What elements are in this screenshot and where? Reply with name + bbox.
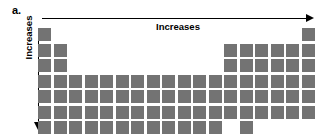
- grid-cell-filled: [38, 28, 51, 41]
- grid-cell-filled: [209, 75, 222, 88]
- grid-cell-filled: [286, 90, 299, 103]
- grid-cell-filled: [100, 121, 113, 134]
- grid-cell-filled: [116, 106, 129, 119]
- grid-cell-filled: [193, 121, 206, 134]
- grid-cell-filled: [240, 90, 253, 103]
- grid-cell-filled: [302, 59, 315, 72]
- grid-cell-filled: [224, 75, 237, 88]
- left-axis-label: Increases: [23, 0, 34, 88]
- grid-cell-filled: [54, 75, 67, 88]
- grid-cell-filled: [302, 90, 315, 103]
- grid-cell-filled: [178, 106, 191, 119]
- grid-cell-filled: [54, 59, 67, 72]
- top-axis-label: Increases: [42, 21, 314, 32]
- grid-cell-filled: [69, 90, 82, 103]
- grid-cell-filled: [286, 75, 299, 88]
- grid-cell-filled: [255, 44, 268, 57]
- grid-cell-filled: [302, 106, 315, 119]
- grid-cell-filled: [286, 106, 299, 119]
- grid-cell-filled: [147, 75, 160, 88]
- grid-cell-filled: [131, 106, 144, 119]
- grid-cell-filled: [38, 121, 51, 134]
- grid-cell-filled: [85, 90, 98, 103]
- grid-cell-filled: [286, 59, 299, 72]
- grid-cell-filled: [131, 90, 144, 103]
- grid-cell-filled: [224, 90, 237, 103]
- grid-cell-filled: [209, 90, 222, 103]
- grid-cell-filled: [193, 90, 206, 103]
- grid-cell-filled: [255, 59, 268, 72]
- grid-cell-filled: [240, 75, 253, 88]
- grid-cell-filled: [54, 106, 67, 119]
- grid-cell-filled: [69, 75, 82, 88]
- grid-cell-filled: [116, 121, 129, 134]
- grid-cell-filled: [240, 121, 253, 134]
- grid-cell-filled: [286, 44, 299, 57]
- grid-cell-filled: [271, 44, 284, 57]
- grid-cell-filled: [54, 121, 67, 134]
- grid-cell-filled: [224, 59, 237, 72]
- grid-cell-filled: [302, 75, 315, 88]
- grid-cell-filled: [131, 75, 144, 88]
- grid-cell-filled: [147, 121, 160, 134]
- grid-cell-filled: [240, 44, 253, 57]
- grid-cell-filled: [271, 90, 284, 103]
- grid-cell-filled: [255, 106, 268, 119]
- grid-cell-filled: [162, 90, 175, 103]
- grid-cell-filled: [193, 106, 206, 119]
- grid-cell-filled: [302, 44, 315, 57]
- grid-cell-filled: [162, 121, 175, 134]
- grid-cell-filled: [240, 106, 253, 119]
- grid-cell-filled: [54, 44, 67, 57]
- panel-label: a.: [12, 4, 21, 16]
- grid-cell-filled: [162, 106, 175, 119]
- grid-cell-filled: [100, 75, 113, 88]
- grid-cell-filled: [38, 59, 51, 72]
- grid-cell-filled: [193, 75, 206, 88]
- grid-cell-filled: [69, 121, 82, 134]
- grid-cell-filled: [271, 59, 284, 72]
- grid-cell-filled: [255, 75, 268, 88]
- grid-cell-filled: [69, 106, 82, 119]
- top-axis-line: [42, 18, 308, 19]
- grid-cell-filled: [147, 106, 160, 119]
- grid-cell-filled: [38, 106, 51, 119]
- grid-cell-filled: [85, 121, 98, 134]
- grid-cell-filled: [178, 90, 191, 103]
- grid-cell-filled: [54, 90, 67, 103]
- grid-cell-filled: [85, 106, 98, 119]
- grid-cell-filled: [271, 106, 284, 119]
- periodic-trend-figure: a. Increases Increases: [0, 0, 319, 136]
- grid-cell-filled: [85, 75, 98, 88]
- grid-cell-filled: [255, 90, 268, 103]
- grid-cell-filled: [302, 28, 315, 41]
- grid-cell-filled: [162, 75, 175, 88]
- grid-cell-filled: [209, 121, 222, 134]
- grid-cell-filled: [147, 90, 160, 103]
- grid-cell-filled: [100, 90, 113, 103]
- grid-cell-filled: [38, 75, 51, 88]
- grid-cell-filled: [131, 121, 144, 134]
- grid-cell-filled: [38, 90, 51, 103]
- grid-cell-filled: [116, 90, 129, 103]
- grid-cell-filled: [224, 106, 237, 119]
- grid-cell-filled: [116, 75, 129, 88]
- grid-cell-filled: [100, 106, 113, 119]
- grid-cell-filled: [240, 59, 253, 72]
- grid-cell-filled: [224, 44, 237, 57]
- grid-cell-filled: [209, 106, 222, 119]
- grid-cell-filled: [271, 75, 284, 88]
- grid-cell-filled: [38, 44, 51, 57]
- grid-cell-filled: [178, 121, 191, 134]
- grid-cell-filled: [178, 75, 191, 88]
